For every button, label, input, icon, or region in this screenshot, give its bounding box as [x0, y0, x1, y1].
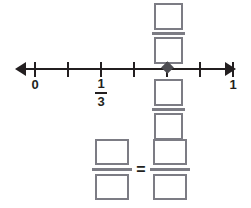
tick-mark-6 — [232, 62, 234, 77]
tick-mark-0 — [34, 62, 36, 77]
axis-label-zero: 0 — [23, 78, 47, 91]
answer-box-numerator-below[interactable] — [154, 79, 183, 106]
equivalent-fraction-equation: = — [92, 139, 190, 200]
equation-right-fraction-bar — [150, 168, 190, 171]
number-line-axis — [24, 68, 227, 70]
arrow-left-icon — [15, 62, 26, 76]
fraction-number-line-worksheet: 0 1 1 3 = — [0, 0, 251, 208]
equation-left-fraction-bar — [92, 168, 132, 171]
equation-right-numerator-box[interactable] — [153, 139, 187, 165]
one-third-numerator: 1 — [88, 77, 114, 91]
axis-label-one: 1 — [221, 78, 245, 91]
tick-mark-1 — [67, 62, 69, 77]
arrow-right-icon — [225, 62, 236, 76]
tick-mark-5 — [199, 62, 201, 77]
fraction-bar-above — [152, 32, 185, 35]
equation-right-fraction — [150, 139, 190, 200]
tick-mark-3 — [133, 62, 135, 77]
axis-label-one-third: 1 3 — [88, 77, 114, 108]
fraction-bar-below — [152, 108, 185, 111]
answer-box-denominator-below[interactable] — [154, 113, 183, 140]
equation-right-denominator-box[interactable] — [153, 174, 187, 200]
answer-fraction-above — [152, 3, 185, 64]
answer-box-numerator-above[interactable] — [154, 3, 183, 30]
answer-fraction-below — [152, 79, 185, 140]
equation-left-numerator-box[interactable] — [95, 139, 129, 165]
tick-mark-2 — [100, 62, 102, 77]
equals-sign: = — [132, 162, 150, 178]
one-third-denominator: 3 — [88, 95, 114, 109]
equation-left-denominator-box[interactable] — [95, 174, 129, 200]
equation-left-fraction — [92, 139, 132, 200]
answer-box-denominator-above[interactable] — [154, 37, 183, 64]
